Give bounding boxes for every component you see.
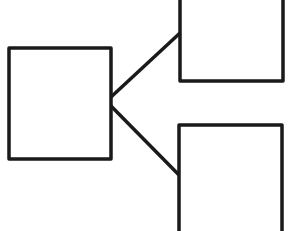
diagram-canvas (0, 0, 304, 231)
child-top-node-box (180, 0, 283, 81)
child-bottom-node-box (179, 125, 282, 231)
edge-root-to-child-bottom (111, 106, 179, 175)
root-node-box (9, 48, 111, 159)
edge-root-to-child-top (111, 33, 180, 97)
